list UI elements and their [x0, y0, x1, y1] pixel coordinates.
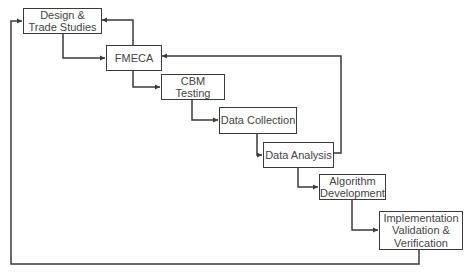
node-design-trade-studies: Design & Trade Studies: [23, 8, 102, 34]
process-flow-diagram: Design & Trade Studies FMECA CBM Testing…: [0, 0, 467, 272]
node-implementation-validation-verification: Implementation Validation & Verification: [379, 211, 463, 250]
edge-design-to-fmeca: [63, 33, 105, 58]
node-data-collection: Data Collection: [219, 107, 297, 134]
edge-algorithm-to-implementation: [352, 199, 378, 230]
node-data-analysis: Data Analysis: [263, 142, 334, 168]
edge-cbm-to-collection: [192, 99, 218, 120]
edge-fmeca-to-cbm: [133, 70, 160, 87]
node-fmeca: FMECA: [106, 45, 162, 71]
node-algorithm-development: Algorithm Development: [319, 174, 386, 200]
edge-collection-to-analysis: [257, 133, 262, 155]
node-cbm-testing: CBM Testing: [161, 74, 225, 100]
edge-analysis-to-algorithm: [298, 167, 318, 187]
edge-analysis-to-fmeca: [162, 56, 341, 153]
edge-fmeca-to-design: [102, 20, 133, 45]
